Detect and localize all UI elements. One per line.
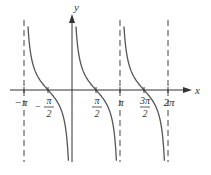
x-tick-label-sign: − [35, 101, 42, 112]
x-tick-label-denominator: 2 [143, 108, 148, 119]
x-tick-label-denominator: 2 [95, 108, 100, 119]
y-axis-arrow [69, 14, 75, 23]
y-axis-label: y [73, 1, 79, 13]
x-axis-arrow [183, 87, 192, 93]
x-tick-label: −π [15, 96, 28, 108]
cotangent-chart: x y −ππ2−π2π3π22π [0, 0, 211, 175]
x-tick-label-denominator: 2 [46, 108, 51, 119]
cotangent-branch-1 [76, 27, 116, 161]
x-tick-label: 2π [163, 96, 175, 108]
cotangent-branch-2 [124, 27, 164, 161]
x-tick-label-numerator: π [46, 95, 52, 106]
x-tick-label-numerator: 3π [139, 95, 151, 106]
x-tick-label: π [118, 96, 124, 108]
cotangent-branch-0 [28, 27, 68, 161]
x-axis-label: x [194, 84, 200, 96]
x-tick-label-numerator: π [94, 95, 100, 106]
